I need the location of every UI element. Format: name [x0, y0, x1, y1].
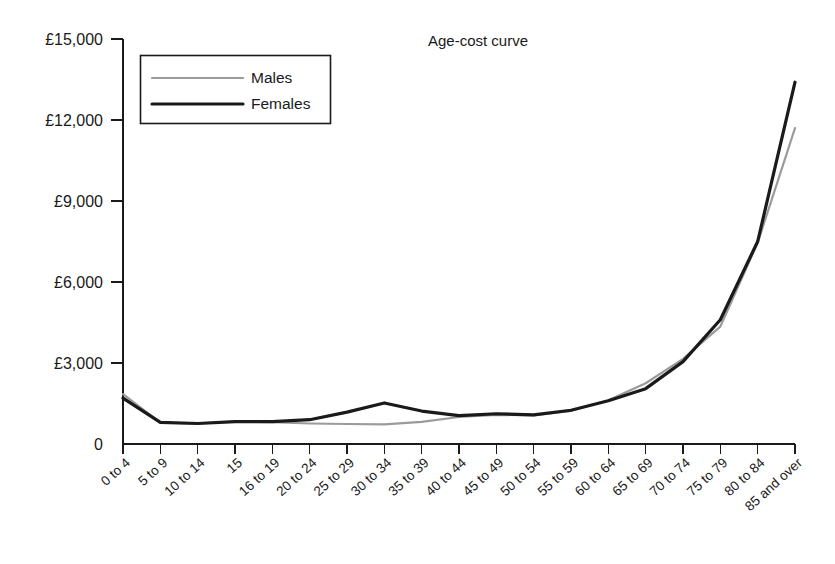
series-line-males	[123, 128, 795, 424]
x-tick-label: 30 to 34	[348, 455, 395, 499]
x-tick-label: 25 to 29	[311, 455, 357, 499]
x-tick-label: 60 to 64	[572, 455, 619, 499]
y-tick-label: 0	[94, 436, 103, 453]
y-tick-label: £3,000	[54, 355, 103, 372]
y-axis-ticks: 0£3,000£6,000£9,000£12,000£15,000	[45, 31, 123, 453]
chart-canvas: Age-cost curve 0£3,000£6,000£9,000£12,00…	[0, 0, 835, 564]
age-cost-curve-chart: Age-cost curve 0£3,000£6,000£9,000£12,00…	[0, 0, 835, 564]
x-tick-label: 20 to 24	[273, 455, 320, 499]
x-tick-label: 0 to 4	[98, 455, 134, 489]
data-series-group	[123, 82, 795, 424]
x-tick-label: 40 to 44	[423, 455, 470, 499]
y-tick-label: £9,000	[54, 193, 103, 210]
x-axis-ticks: 0 to 45 to 910 to 141516 to 1920 to 2425…	[98, 444, 806, 514]
series-line-females	[123, 82, 795, 423]
x-tick-label: 35 to 39	[385, 455, 431, 499]
y-tick-label: £15,000	[45, 31, 103, 48]
x-tick-label: 16 to 19	[236, 455, 282, 499]
x-tick-label: 45 to 49	[460, 455, 506, 499]
x-tick-label: 70 to 74	[647, 455, 694, 499]
legend-label-males: Males	[251, 69, 293, 86]
y-tick-label: £6,000	[54, 274, 103, 291]
x-tick-label: 55 to 59	[535, 455, 581, 499]
x-tick-label: 50 to 54	[497, 455, 544, 499]
y-tick-label: £12,000	[45, 112, 103, 129]
legend-box	[141, 56, 331, 124]
x-tick-label: 65 to 69	[609, 455, 655, 499]
x-tick-label: 10 to 14	[161, 455, 208, 499]
chart-legend: Males Females	[141, 56, 331, 124]
x-tick-label: 15	[224, 455, 245, 476]
legend-label-females: Females	[251, 95, 311, 112]
x-tick-label: 75 to 79	[684, 455, 730, 499]
chart-title: Age-cost curve	[428, 32, 528, 49]
